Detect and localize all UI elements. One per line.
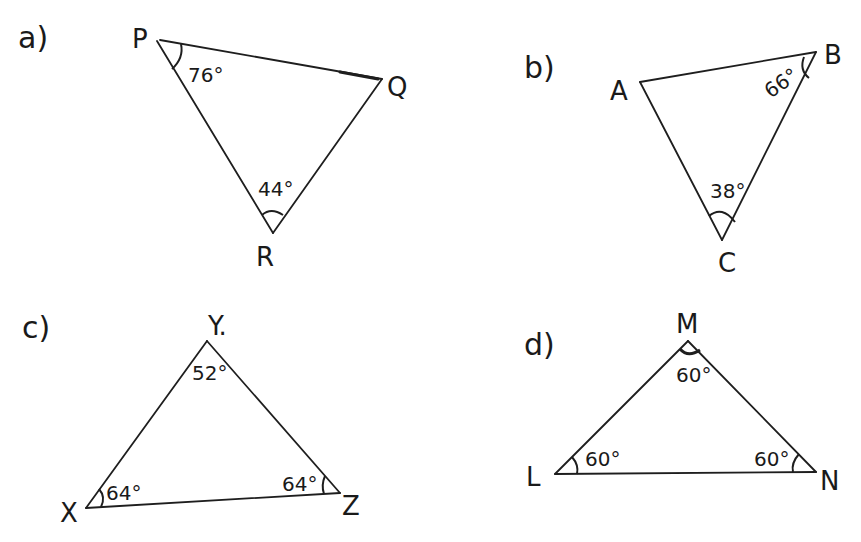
- angle-b-value: 66°: [760, 63, 803, 103]
- angle-p-value: 76°: [188, 63, 223, 87]
- edge-qr: [273, 79, 382, 233]
- vertex-b-label: B: [824, 40, 842, 70]
- triangle-a: a) P Q R 76° 44°: [18, 20, 407, 272]
- angle-r-value: 44°: [258, 177, 293, 201]
- part-d-label: d): [524, 327, 555, 362]
- vertex-p-label: P: [132, 24, 148, 54]
- edge-pq-mark: [340, 72, 378, 79]
- triangle-b: b) A B C 66° 38°: [524, 40, 842, 278]
- worksheet-canvas: a) P Q R 76° 44° b) A B C 66° 38° c) Y. …: [0, 0, 861, 542]
- angle-m-value: 60°: [676, 363, 711, 387]
- angle-arc-z: [323, 476, 325, 494]
- part-c-label: c): [22, 310, 50, 345]
- vertex-l-label: L: [526, 462, 541, 492]
- vertex-a-label: A: [610, 76, 628, 106]
- vertex-x-label: X: [60, 498, 78, 528]
- angle-arc-p: [172, 44, 182, 69]
- vertex-c-label: C: [718, 248, 736, 278]
- edge-xy: [86, 341, 207, 508]
- angle-arc-r: [262, 211, 283, 215]
- edge-ln: [555, 472, 816, 474]
- vertex-q-label: Q: [387, 72, 407, 102]
- angle-y-value: 52°: [192, 361, 227, 385]
- triangle-d: d) M L N 60° 60° 60°: [524, 309, 839, 496]
- angle-z-value: 64°: [282, 472, 317, 496]
- angle-n-value: 60°: [754, 447, 789, 471]
- part-b-label: b): [524, 50, 555, 85]
- vertex-n-label: N: [820, 466, 839, 496]
- triangle-c: c) Y. X Z 52° 64° 64°: [22, 310, 360, 528]
- edge-lm: [555, 341, 688, 474]
- angle-c-value: 38°: [710, 179, 745, 203]
- angle-l-value: 60°: [585, 447, 620, 471]
- part-a-label: a): [18, 20, 48, 55]
- vertex-m-label: M: [676, 309, 698, 339]
- angle-arc-n: [793, 454, 799, 472]
- vertex-z-label: Z: [342, 491, 360, 521]
- vertex-r-label: R: [256, 242, 274, 272]
- angle-arc-l: [572, 457, 577, 474]
- angle-x-value: 64°: [106, 481, 141, 505]
- vertex-y-label: Y.: [207, 311, 227, 341]
- angle-arc-x: [99, 489, 103, 507]
- edge-mn: [688, 341, 816, 472]
